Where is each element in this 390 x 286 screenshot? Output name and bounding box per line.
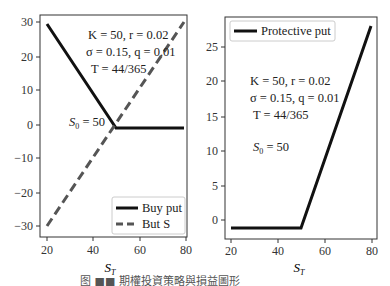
- right-axes-frame: [225, 17, 377, 239]
- left-y-axis: 30 20 10 0 −10 −20 −30: [14, 15, 40, 233]
- y-tick-label: 20: [21, 50, 33, 64]
- y-tick-label: 15: [206, 110, 218, 124]
- x-tick-label: 80: [180, 243, 192, 257]
- legend-label-protective-put: Protective put: [261, 24, 331, 38]
- figure-caption: 图 ■■ 期權投資策略與損益圖形: [80, 272, 320, 286]
- x-tick-label: 40: [87, 243, 99, 257]
- y-tick-label: 0: [212, 213, 218, 227]
- left-chart: 30 20 10 0 −10 −20 −30 20 40 60 80 ST K …: [14, 15, 192, 277]
- x-tick-label: 60: [134, 243, 146, 257]
- s0-label: S0 = 50: [69, 115, 105, 131]
- y-tick-label: −10: [14, 151, 33, 165]
- x-tick-label: 40: [272, 244, 284, 258]
- y-tick-label: 30: [21, 15, 33, 29]
- param-line-1: K = 50, r = 0.02: [88, 28, 168, 42]
- param-line-3: T = 44/365: [253, 108, 308, 122]
- y-tick-label: 0: [27, 118, 33, 132]
- left-legend: Buy put But S: [112, 197, 185, 234]
- x-tick-label: 20: [225, 244, 237, 258]
- x-tick-label: 60: [319, 244, 331, 258]
- param-line-2: σ = 0.15, q = 0.01: [250, 91, 340, 105]
- left-x-axis: 20 40 60 80 ST: [41, 237, 192, 277]
- y-tick-label: 20: [206, 74, 218, 88]
- legend-label-buy-stock: But S: [142, 217, 170, 231]
- right-parameters-annotation: K = 50, r = 0.02 σ = 0.15, q = 0.01 T = …: [250, 74, 340, 156]
- x-tick-label: 20: [41, 243, 53, 257]
- x-tick-label: 80: [366, 244, 378, 258]
- param-line-2: σ = 0.15, q = 0.01: [86, 45, 176, 59]
- right-legend: Protective put: [230, 21, 335, 41]
- param-line-1: K = 50, r = 0.02: [250, 74, 330, 88]
- y-tick-label: 10: [206, 144, 218, 158]
- y-tick-label: 5: [212, 179, 218, 193]
- right-y-axis: 25 20 15 10 5 0: [206, 40, 225, 227]
- s0-label: S0 = 50: [253, 140, 289, 156]
- param-line-3: T = 44/365: [91, 62, 146, 76]
- y-tick-label: 10: [21, 83, 33, 97]
- y-tick-label: −30: [14, 219, 33, 233]
- y-tick-label: −20: [14, 186, 33, 200]
- legend-label-buy-put: Buy put: [142, 201, 182, 215]
- y-tick-label: 25: [206, 40, 218, 54]
- right-chart: 25 20 15 10 5 0 20 40 60 80 ST K = 50, r…: [206, 17, 378, 277]
- protective-put-line: [231, 26, 371, 228]
